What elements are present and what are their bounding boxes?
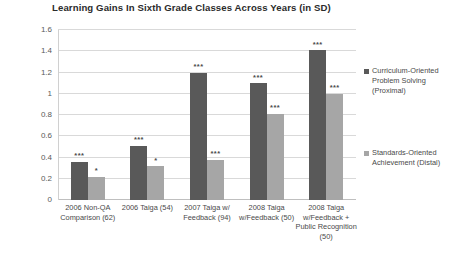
x-axis-label-line: w/Feedback + [292,213,360,223]
x-axis-label-line: 2008 Taiga [292,203,360,213]
y-axis-tick-label: 1.6 [6,26,52,34]
x-axis-category-label: 2008 Taigaw/Feedback +Public Recognition… [292,203,360,241]
x-axis-label-line: 2007 Taiga w/ [173,203,241,213]
bar-distal[interactable] [326,94,343,200]
bar-proximal[interactable] [190,73,207,201]
significance-marker: * [88,167,105,175]
bar-distal[interactable] [88,177,105,200]
legend-label-line: Problem Solving [372,76,439,86]
x-axis-category-label: 2008 Taigaw/Feedback (50) [233,203,301,222]
x-axis-category-labels: 2006 Non-QAComparison (62)2006 Taiga (54… [58,203,356,257]
bar-proximal[interactable] [130,146,147,200]
bar-group: ****** [296,30,356,200]
legend-label-line: Achievement (Distal) [372,158,440,168]
significance-marker: *** [250,74,267,82]
y-axis-tick-label: 1.2 [6,69,52,77]
significance-marker: *** [267,104,284,112]
x-axis-label-line: 2008 Taiga [233,203,301,213]
significance-marker: *** [309,41,326,49]
bar-group: **** [58,30,118,200]
y-axis-tick-label: 1.4 [6,47,52,55]
x-axis-category-label: 2006 Taiga (54) [114,203,182,213]
legend-label: Curriculum-OrientedProblem Solving(Proxi… [372,66,439,95]
y-axis-tick-label: 1 [6,90,52,98]
legend-swatch-icon [364,151,369,156]
bar-group: **** [118,30,178,200]
significance-marker: *** [207,150,224,158]
significance-marker: * [147,157,164,165]
legend-label-line: Standards-Oriented [372,148,440,158]
bar-group: ****** [177,30,237,200]
x-axis-category-label: 2006 Non-QAComparison (62) [54,203,122,222]
significance-marker: *** [130,136,147,144]
legend-label-line: Curriculum-Oriented [372,66,439,76]
x-axis-label-line: (50) [292,232,360,242]
x-axis-label-line: w/Feedback (50) [233,213,301,223]
bars-layer: ************************** [58,30,356,200]
x-axis-label-line: Public Recognition [292,222,360,232]
x-axis-label-line: Feedback (94) [173,213,241,223]
chart-legend: Curriculum-OrientedProblem Solving(Proxi… [364,30,476,200]
bar-distal[interactable] [267,114,284,200]
bar-proximal[interactable] [71,162,88,200]
legend-entry[interactable]: Curriculum-OrientedProblem Solving(Proxi… [364,66,476,95]
x-axis-category-label: 2007 Taiga w/Feedback (94) [173,203,241,222]
legend-entry[interactable]: Standards-OrientedAchievement (Distal) [364,148,476,168]
significance-marker: *** [71,152,88,160]
significance-marker: *** [190,63,207,71]
bar-proximal[interactable] [250,83,267,200]
x-axis-label-line: 2006 Taiga (54) [114,203,182,213]
y-axis-tick-label: 0.8 [6,111,52,119]
y-axis-tick-labels: 00.20.40.60.811.21.41.6 [0,30,52,200]
chart-container: Learning Gains In Sixth Grade Classes Ac… [0,0,476,258]
y-axis-tick-label: 0 [6,196,52,204]
bar-distal[interactable] [207,160,224,200]
legend-label: Standards-OrientedAchievement (Distal) [372,148,440,168]
bar-distal[interactable] [147,166,164,200]
significance-marker: *** [326,84,343,92]
x-axis-label-line: 2006 Non-QA [54,203,122,213]
x-axis-label-line: Comparison (62) [54,213,122,223]
legend-label-line: (Proximal) [372,86,439,96]
legend-swatch-icon [364,69,369,74]
y-axis-tick-label: 0.2 [6,175,52,183]
chart-title: Learning Gains In Sixth Grade Classes Ac… [52,2,412,14]
bar-proximal[interactable] [309,50,326,200]
y-axis-tick-label: 0.6 [6,132,52,140]
y-axis-tick-label: 0.4 [6,154,52,162]
bar-group: ****** [237,30,297,200]
